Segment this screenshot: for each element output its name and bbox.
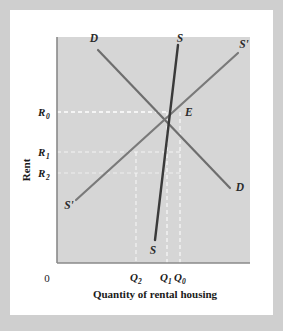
y-tick-r0-sub: 0 — [46, 112, 50, 121]
y-tick-r2-sub: 2 — [45, 173, 50, 182]
x-tick-q0-sub: 0 — [182, 277, 186, 286]
plot-background — [57, 37, 250, 263]
x-tick-q0-label: Q — [174, 271, 182, 283]
y-tick-r2-label: R — [37, 167, 45, 179]
x-tick-q1: Q 1 — [160, 271, 172, 286]
x-tick-q1-label: Q — [160, 271, 168, 283]
y-tick-r1: R 1 — [37, 146, 50, 161]
y-axis-title: Rent — [20, 158, 32, 181]
x-tick-q2-sub: 2 — [137, 277, 142, 286]
figure-frame: D D S S S' S' E R 0 R 1 R 2 Q 2 — [0, 0, 283, 331]
chart-canvas: D D S S S' S' E R 0 R 1 R 2 Q 2 — [0, 0, 283, 331]
demand-bottom-label: D — [235, 181, 245, 193]
x-axis-title: Quantity of rental housing — [93, 288, 218, 300]
y-tick-r0: R 0 — [37, 106, 50, 121]
y-tick-r0-label: R — [37, 106, 45, 118]
demand-top-label: D — [89, 32, 99, 44]
origin-label: 0 — [44, 272, 50, 284]
y-tick-r2: R 2 — [37, 167, 50, 182]
x-tick-q0: Q 0 — [174, 271, 186, 286]
x-tick-q2: Q 2 — [130, 271, 142, 286]
supply-steep-top-label: S — [177, 32, 183, 44]
supply-steep-bottom-label: S — [150, 244, 156, 256]
x-tick-q2-label: Q — [130, 271, 138, 283]
supply-flat-bottom-label: S' — [64, 199, 74, 211]
equilibrium-label: E — [184, 106, 193, 118]
x-tick-q1-sub: 1 — [168, 277, 172, 286]
supply-demand-chart: D D S S S' S' E R 0 R 1 R 2 Q 2 — [0, 0, 283, 331]
y-tick-r1-sub: 1 — [46, 152, 50, 161]
y-tick-r1-label: R — [37, 146, 45, 158]
supply-flat-top-label: S' — [239, 38, 249, 50]
